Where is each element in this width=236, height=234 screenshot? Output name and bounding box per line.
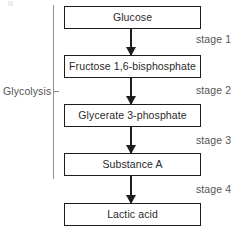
node-substance-a[interactable]: Substance A [64, 153, 201, 176]
node-lactic-acid-label: Lactic acid [107, 209, 158, 220]
node-substance-a-label: Substance A [102, 159, 162, 170]
node-glycerate-3-phosphate-label: Glycerate 3-phosphate [78, 110, 186, 121]
stage-label-2: stage 2 [196, 84, 231, 96]
arrow-icon-stage-3 [130, 127, 132, 153]
arrow-icon-stage-2 [130, 78, 132, 104]
node-glucose[interactable]: Glucose [64, 6, 201, 29]
node-lactic-acid[interactable]: Lactic acid [64, 203, 201, 226]
arrow-icon-stage-1 [130, 29, 132, 55]
scan-artifact [8, 1, 13, 6]
stage-label-1: stage 1 [196, 33, 231, 45]
glycolysis-group-label: Glycolysis [3, 85, 51, 97]
node-glucose-label: Glucose [113, 12, 152, 23]
node-glycerate-3-phosphate[interactable]: Glycerate 3-phosphate [64, 104, 201, 127]
node-fructose-1-6-bisphosphate[interactable]: Fructose 1,6-bisphosphate [64, 55, 201, 78]
glycolysis-diagram: Glycolysis Glucose Fructose 1,6-bisphosp… [0, 0, 236, 234]
arrow-icon-stage-4 [130, 176, 132, 203]
glycolysis-bracket-tick [54, 91, 59, 92]
stage-label-3: stage 3 [196, 134, 231, 146]
stage-label-4: stage 4 [196, 183, 231, 195]
node-fructose-1-6-bisphosphate-label: Fructose 1,6-bisphosphate [69, 61, 196, 72]
